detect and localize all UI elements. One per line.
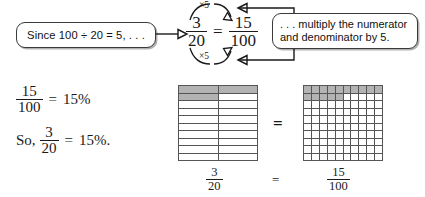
grid-label-equals-sign: = xyxy=(272,172,279,188)
grid-cell-empty xyxy=(351,154,359,162)
grid-cell-empty xyxy=(375,101,383,109)
grid-cell-empty xyxy=(367,124,375,132)
grid-cell-empty xyxy=(336,154,344,162)
grid-cell-empty xyxy=(328,109,336,117)
grid-cell-empty xyxy=(375,116,383,124)
grid-cell-shaded xyxy=(320,94,328,102)
grid-cell-empty xyxy=(367,109,375,117)
numerator: 3 xyxy=(209,166,219,179)
grid-cell-empty xyxy=(304,139,312,147)
grid-cell-empty xyxy=(344,131,352,139)
denominator: 100 xyxy=(327,179,350,193)
grid-cell-empty xyxy=(179,101,219,109)
grid-label-twentieths: 3 20 xyxy=(206,166,223,193)
grid-cell-empty xyxy=(375,146,383,154)
grid-cell-empty xyxy=(179,124,219,132)
denominator: 20 xyxy=(40,140,59,156)
grid-cell-shaded xyxy=(219,86,259,94)
grid-cell-empty xyxy=(179,154,219,162)
grid-cell-empty xyxy=(179,116,219,124)
grid-cell-empty xyxy=(344,124,352,132)
grid-cell-empty xyxy=(359,94,367,102)
grid-cell-empty xyxy=(336,146,344,154)
arrow-left-to-equation xyxy=(156,28,188,40)
grid-cell-empty xyxy=(219,94,259,102)
grid-cell-empty xyxy=(336,139,344,147)
grid-cell-shaded xyxy=(304,94,312,102)
conclusion-prefix: So, xyxy=(16,132,36,149)
grid-cell-empty xyxy=(359,101,367,109)
grid-cell-empty xyxy=(336,124,344,132)
grid-cell-empty xyxy=(336,116,344,124)
numerator: 15 xyxy=(20,84,39,99)
grid-cell-empty xyxy=(312,131,320,139)
grid-cell-empty xyxy=(304,124,312,132)
grid-cell-empty xyxy=(219,101,259,109)
grid-cell-shaded xyxy=(179,94,219,102)
grid-cell-empty xyxy=(328,131,336,139)
grid-cell-empty xyxy=(219,109,259,117)
grid-cell-empty xyxy=(304,131,312,139)
grid-cell-empty xyxy=(179,146,219,154)
fraction-fifteen-hundredths: 15 100 xyxy=(16,84,43,116)
grid-cell-empty xyxy=(179,109,219,117)
grid-cell-shaded xyxy=(328,94,336,102)
grid-cell-empty xyxy=(320,139,328,147)
fraction-three-twentieths: 3 20 xyxy=(40,125,59,157)
grid-cell-empty xyxy=(320,146,328,154)
equals-sign: = xyxy=(65,132,73,149)
grid-cell-empty xyxy=(367,94,375,102)
grid-cell-empty xyxy=(304,146,312,154)
grid-cell-empty xyxy=(328,124,336,132)
callout-right-line-1: . . . multiply the numerator xyxy=(280,18,407,31)
grid-cell-shaded xyxy=(336,86,344,94)
grid-cell-shaded xyxy=(312,94,320,102)
grid-cell-empty xyxy=(359,124,367,132)
grid-cell-empty xyxy=(375,154,383,162)
grid-cell-empty xyxy=(344,94,352,102)
grid-cell-empty xyxy=(312,101,320,109)
grid-cell-shaded xyxy=(359,86,367,94)
percent-result: 15% xyxy=(63,91,91,108)
grid-cell-empty xyxy=(320,109,328,117)
grid-cell-empty xyxy=(367,101,375,109)
grid-cell-empty xyxy=(359,154,367,162)
grid-cell-empty xyxy=(312,146,320,154)
grid-cell-empty xyxy=(320,131,328,139)
grid-cell-shaded xyxy=(312,86,320,94)
grid-cell-empty xyxy=(359,139,367,147)
grid-cell-empty xyxy=(328,116,336,124)
grid-cell-empty xyxy=(219,124,259,132)
arc-label-denominator-times-five: ×5 xyxy=(199,51,209,61)
grid-cell-empty xyxy=(351,94,359,102)
denominator: 100 xyxy=(16,99,43,115)
grid-cell-empty xyxy=(219,131,259,139)
grid-label-hundredths: 15 100 xyxy=(327,166,350,193)
grid-cell-empty xyxy=(367,154,375,162)
grid-cell-shaded xyxy=(336,94,344,102)
grid-cell-empty xyxy=(219,139,259,147)
grid-cell-empty xyxy=(312,124,320,132)
grid-cell-empty xyxy=(179,131,219,139)
grid-model-hundredths xyxy=(303,85,383,161)
grid-cell-empty xyxy=(359,109,367,117)
grid-cell-empty xyxy=(336,101,344,109)
grid-cell-empty xyxy=(336,109,344,117)
grid-cell-empty xyxy=(367,139,375,147)
equals-sign: = xyxy=(49,91,57,108)
step-row-percent-conversion: 15 100 = 15% xyxy=(16,84,110,116)
grid-cell-empty xyxy=(375,131,383,139)
grid-cell-empty xyxy=(344,146,352,154)
grid-cell-empty xyxy=(320,116,328,124)
callout-divide-statement: Since 100 ÷ 20 = 5, . . . xyxy=(16,22,156,48)
worked-steps: 15 100 = 15% So, 3 20 = 15%. xyxy=(16,84,110,165)
numerator: 15 xyxy=(330,166,347,179)
grid-cell-empty xyxy=(312,116,320,124)
grid-cell-empty xyxy=(219,116,259,124)
grid-cell-empty xyxy=(351,101,359,109)
grid-cell-empty xyxy=(304,101,312,109)
grid-model-twentieths xyxy=(178,85,258,161)
grid-cell-empty xyxy=(304,109,312,117)
grid-cell-empty xyxy=(367,146,375,154)
grid-cell-empty xyxy=(359,146,367,154)
